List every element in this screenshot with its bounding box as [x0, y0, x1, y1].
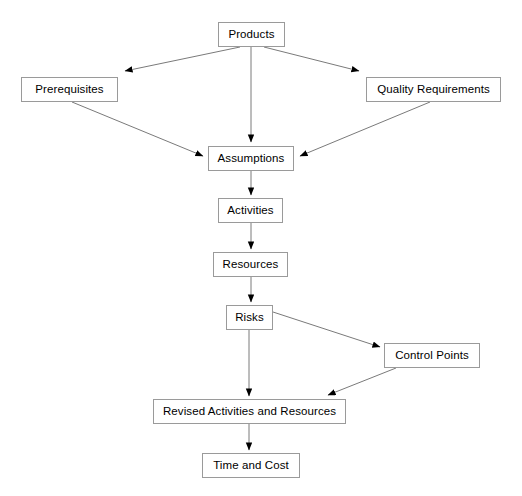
- node-label-products: Products: [226, 29, 276, 41]
- node-control-points[interactable]: Control Points: [384, 343, 480, 368]
- edge-control-revised: [328, 368, 396, 395]
- node-quality-requirements[interactable]: Quality Requirements: [366, 77, 501, 102]
- node-resources[interactable]: Resources: [213, 252, 288, 277]
- node-revised-activities-and-resources[interactable]: Revised Activities and Resources: [153, 399, 346, 424]
- node-label-resources: Resources: [221, 259, 281, 271]
- node-prerequisites[interactable]: Prerequisites: [21, 77, 118, 102]
- edge-quality-assumptions: [300, 102, 430, 156]
- node-label-time-and-cost: Time and Cost: [211, 460, 291, 472]
- edge-risks-control: [273, 312, 380, 347]
- node-time-and-cost[interactable]: Time and Cost: [202, 453, 300, 478]
- node-label-prerequisites: Prerequisites: [33, 84, 105, 96]
- node-label-activities: Activities: [225, 205, 275, 217]
- node-label-risks: Risks: [233, 312, 266, 324]
- edge-products-prerequisites: [125, 47, 240, 71]
- node-products[interactable]: Products: [218, 22, 285, 47]
- node-label-control-points: Control Points: [393, 350, 471, 362]
- node-risks[interactable]: Risks: [226, 305, 273, 330]
- flowchart-canvas: Products Prerequisites Quality Requireme…: [0, 0, 522, 496]
- edge-prerequisites-assumptions: [72, 102, 203, 156]
- node-label-assumptions: Assumptions: [216, 153, 287, 165]
- node-activities[interactable]: Activities: [218, 198, 283, 223]
- node-label-revised-activities-and-resources: Revised Activities and Resources: [161, 406, 338, 418]
- node-label-quality-requirements: Quality Requirements: [375, 84, 492, 96]
- node-assumptions[interactable]: Assumptions: [208, 146, 294, 171]
- edge-products-quality: [264, 47, 359, 71]
